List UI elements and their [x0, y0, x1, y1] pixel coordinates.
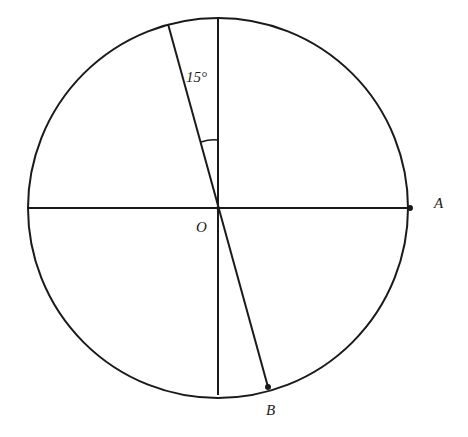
point-a-dot: [407, 205, 413, 211]
label-a: A: [433, 195, 444, 211]
circle-diagram: 15° O A B: [0, 0, 468, 437]
label-o: O: [196, 219, 207, 235]
label-b: B: [266, 402, 275, 418]
point-o-dot: [216, 206, 220, 210]
angle-arc: [201, 140, 218, 142]
point-b-dot: [265, 384, 271, 390]
angle-label: 15°: [186, 69, 207, 85]
